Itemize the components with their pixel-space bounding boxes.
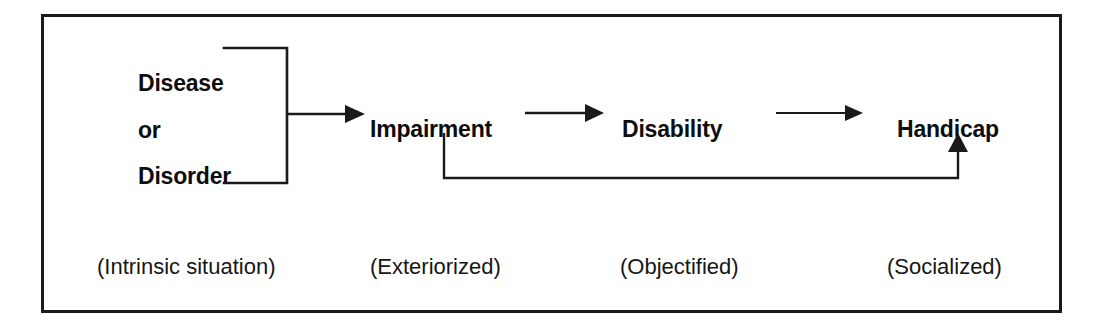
qualifier-label-exteriorized: (Exteriorized) [370,254,501,280]
stage-label-handicap: Handicap [897,116,999,143]
source-line-disorder: Disorder [138,163,231,190]
qualifier-label-socialized: (Socialized) [887,254,1002,280]
qualifier-label-intrinsic: (Intrinsic situation) [97,254,276,280]
source-line-disease: Disease [138,70,224,97]
stage-label-disability: Disability [622,116,722,143]
figure-canvas: Disease or Disorder Impairment Disabilit… [0,0,1099,329]
qualifier-label-objectified: (Objectified) [620,254,739,280]
stage-label-impairment: Impairment [370,116,492,143]
source-line-or: or [138,117,161,144]
figure-frame: Disease or Disorder Impairment Disabilit… [41,14,1062,313]
